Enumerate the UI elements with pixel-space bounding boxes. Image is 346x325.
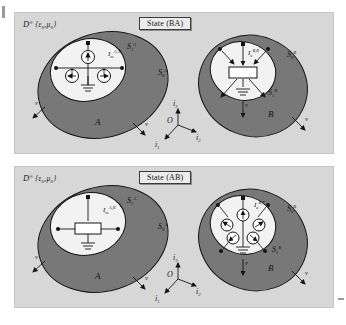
normal-label-a-bottom-1: ν: [35, 253, 38, 260]
terminal-node-left: [54, 66, 58, 70]
normal-label-a-bottom-2: ν: [145, 274, 148, 281]
s1a-sup: A: [132, 42, 136, 47]
i1-sub: 1: [157, 145, 159, 150]
terminal-node-right: [120, 66, 124, 70]
normal-label-b-1: ν: [245, 101, 248, 108]
region-label-b-bottom: B: [268, 263, 274, 273]
normal-label-b-bottom-1: ν: [245, 259, 248, 266]
s0a-sup: A: [163, 68, 167, 73]
normal-label-b-bottom-2: ν: [305, 269, 308, 276]
page-edge-mark-bottom: [338, 298, 344, 300]
axis-i1: [165, 125, 178, 139]
region-a-top: ImA,T S1A S0A A ν ν: [25, 16, 182, 153]
s1b-sup: B: [274, 88, 277, 93]
axis-i1-label-bottom: i1: [155, 294, 160, 304]
s0ab-sup: A: [163, 222, 167, 227]
i3-sub-b: 3: [175, 258, 178, 263]
axis-i3-label-top: i3: [173, 99, 178, 109]
terminal-node-top: [86, 41, 90, 45]
normal-label-a-2: ν: [145, 120, 148, 127]
terminal-node-top-bottom: [86, 195, 90, 199]
s1bb-sup: B: [278, 245, 281, 250]
src-b-b-sub: e: [256, 205, 258, 210]
s1bb-sub: 1: [276, 250, 278, 255]
panel-state-ba: D∞ {ε₀,μ₀} State (BA): [14, 12, 334, 154]
axis-i2: [178, 125, 196, 132]
axis-i2-label-bottom: i2: [196, 287, 201, 297]
i1-sub-b: 1: [157, 299, 159, 304]
panel-state-ab: D∞ {ε₀,μ₀} State (AB): [14, 166, 334, 308]
page-edge-mark-top: [2, 6, 5, 18]
axis-i3-label-bottom: i3: [173, 253, 178, 263]
s1ab-sup: A: [132, 196, 136, 201]
panel-top-graphics: ImA,T S1A S0A A ν ν: [15, 13, 333, 153]
region-label-b: B: [268, 109, 274, 119]
axis-i2-bottom: [178, 279, 196, 286]
region-b-bottom: IeB,T S0B S1B B ν ν: [183, 173, 322, 307]
source-label-b-sub: e: [250, 53, 252, 58]
axis-origin-label-bottom: O: [167, 270, 173, 279]
terminal-node-right-bottom: [116, 227, 120, 231]
s1ab-sub: 1: [131, 201, 133, 206]
i2-sub-b: 2: [198, 292, 201, 297]
panel-bottom-graphics: ImA,R S1A S0A A ν ν: [15, 167, 333, 307]
s1b-sub: 1: [272, 93, 274, 98]
axis-i1-bottom: [165, 279, 178, 293]
region-a-bottom: ImA,R S1A S0A A ν ν: [25, 170, 182, 307]
figure-root: D∞ {ε₀,μ₀} State (BA): [0, 0, 346, 325]
s0bb-sup: B: [293, 204, 296, 209]
region-label-a-bottom: A: [94, 271, 101, 281]
normal-label-b-2: ν: [305, 115, 308, 122]
receiver-box-a: [75, 223, 101, 234]
region-b-top: IeB,R S0B S1B B ν ν: [183, 19, 322, 153]
i3-sub: 3: [175, 104, 178, 109]
axis-origin-label-top: O: [167, 116, 173, 125]
i2-sub: 2: [198, 138, 201, 143]
terminal-node-left-bottom: [56, 227, 60, 231]
receiver-box-b: [229, 67, 257, 78]
s1a-sub: 1: [131, 47, 133, 52]
region-label-a: A: [94, 117, 101, 127]
axis-i1-label-top: i1: [155, 140, 160, 150]
axis-i2-label-top: i2: [196, 133, 201, 143]
s0b-sup: B: [293, 50, 296, 55]
normal-label-a-1: ν: [35, 99, 38, 106]
